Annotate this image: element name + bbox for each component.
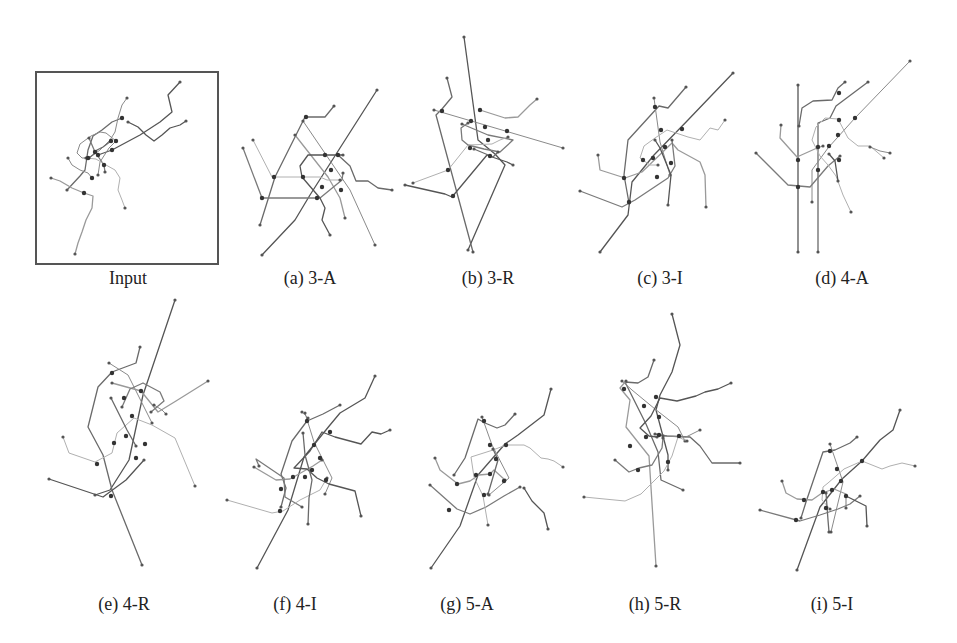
terminal-station [388,428,391,431]
metro-line [782,481,846,508]
interchange-station [622,387,626,391]
terminal-station [561,465,564,468]
terminal-station [729,381,732,384]
terminal-station [513,412,516,415]
interchange-station [279,487,283,491]
interchange-station [636,468,640,472]
interchange-station [486,138,490,142]
terminal-station [103,170,106,173]
terminal-station [844,506,847,509]
terminal-station [323,492,326,495]
terminal-station [578,189,581,192]
caption-4a: (d) 4-A [815,268,868,289]
terminal-station [126,120,129,123]
interchange-station [291,475,295,479]
interchange-station [474,473,478,477]
terminal-station [428,483,431,486]
terminal-station [796,250,799,253]
interchange-station [666,460,670,464]
terminal-station [738,461,741,464]
terminal-station [653,138,656,141]
interchange-station [502,479,506,483]
metro-line [88,347,142,565]
terminal-station [49,176,52,179]
metro-line [413,137,508,183]
terminal-station [522,486,525,489]
interchange-station [796,185,800,189]
interchange-station [821,490,825,494]
interchange-station [324,478,328,482]
interchange-station [657,415,661,419]
terminal-station [549,387,552,390]
interchange-station [642,404,646,408]
terminal-station [251,138,254,141]
interchange-station [669,161,673,165]
terminal-station [868,145,871,148]
terminal-station [142,458,145,461]
terminal-station [913,464,916,467]
interchange-station [655,175,659,179]
terminal-station [390,188,393,191]
terminal-station [301,119,304,122]
terminal-station [193,484,196,487]
interchange-station [837,158,841,162]
interchange-station [328,430,332,434]
terminal-station [375,88,378,91]
terminal-station [908,59,911,62]
interchange-station [488,443,492,447]
terminal-station [620,379,623,382]
terminal-station [66,156,69,159]
interchange-station [860,459,864,463]
caption-5r: (h) 5-R [629,594,682,615]
terminal-station [731,71,734,74]
terminal-station [698,428,701,431]
metro-line [405,155,513,197]
caption-3r: (b) 3-R [462,268,515,289]
terminal-station [670,312,673,315]
terminal-station [598,250,601,253]
interchange-station [446,168,450,172]
interchange-station [315,196,319,200]
interchange-station [90,176,94,180]
terminal-station [491,447,494,450]
terminal-station [123,206,126,209]
terminal-station [838,154,841,157]
interchange-station [323,153,327,157]
terminal-station [843,80,846,83]
terminal-station [373,243,376,246]
interchange-station [505,129,509,133]
terminal-station [596,153,599,156]
interchange-station [677,434,681,438]
terminal-station [258,223,261,226]
terminal-station [140,563,143,566]
metro-line [262,90,377,255]
terminal-station [670,138,673,141]
metro-line [431,389,551,568]
interchange-station [86,156,90,160]
terminal-station [343,216,346,219]
interchange-station [824,506,828,510]
interchange-station [455,482,459,486]
caption-5i: (i) 5-I [811,594,853,615]
interchange-station [112,441,116,445]
interchange-station [816,145,820,149]
terminal-station [758,508,761,511]
interchange-station [310,468,314,472]
terminal-station [827,152,830,155]
terminal-station [613,458,616,461]
interchange-station [312,443,316,447]
terminal-station [780,479,783,482]
terminal-station [403,183,406,186]
metro-line [471,445,563,525]
terminal-station [152,403,155,406]
metro-line [780,125,823,157]
terminal-station [109,396,112,399]
interchange-station [836,133,840,137]
metro-line [870,147,890,153]
terminal-station [460,122,463,125]
interchange-station [488,154,492,158]
metro-line [77,98,127,175]
interchange-station [96,153,100,157]
terminal-station [799,516,802,519]
interchange-station [114,139,118,143]
